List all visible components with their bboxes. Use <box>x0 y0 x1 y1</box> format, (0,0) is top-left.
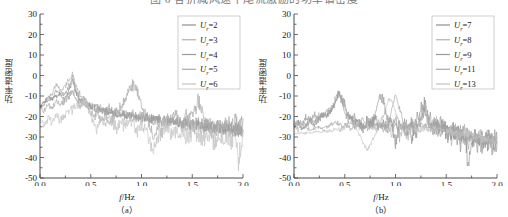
y-tick-label: -40 <box>25 153 37 163</box>
y-tick-label: 10 <box>28 50 38 60</box>
y-tick-label: 10 <box>282 50 292 60</box>
x-tick-label: 1.0 <box>136 180 148 186</box>
x-tick-label: 1.5 <box>187 180 199 186</box>
x-tick-label: 1.5 <box>441 180 453 186</box>
y-tick-label: -10 <box>25 91 37 101</box>
x-tick-label: 0.5 <box>339 180 351 186</box>
x-tick-label: 0.0 <box>288 180 300 186</box>
x-axis-label-b: f/Hz <box>254 192 508 202</box>
figure-container: 功率谱密度 3020100-10-20-30-40-500.00.51.01.5… <box>0 6 508 217</box>
panel-caption-a: （a） <box>0 203 254 215</box>
x-axis-unit-a: /Hz <box>122 192 135 202</box>
y-tick-label: -30 <box>279 132 291 142</box>
x-tick-label: 0.0 <box>34 180 46 186</box>
y-tick-label: -10 <box>279 91 291 101</box>
plot-a: 3020100-10-20-30-40-500.00.51.01.52.0Ur=… <box>0 6 254 186</box>
panel-a: 功率谱密度 3020100-10-20-30-40-500.00.51.01.5… <box>0 6 254 217</box>
y-tick-label: -30 <box>25 132 37 142</box>
x-axis-unit-b: /Hz <box>376 192 389 202</box>
plot-b: 3020100-10-20-30-40-500.00.51.01.52.0Ur=… <box>254 6 508 186</box>
series-line <box>40 99 243 171</box>
y-tick-label: 30 <box>28 9 38 19</box>
y-tick-label: 0 <box>287 71 292 81</box>
x-tick-label: 0.5 <box>85 180 97 186</box>
y-tick-label: 0 <box>33 71 38 81</box>
x-axis-label-a: f/Hz <box>0 192 254 202</box>
y-tick-label: -20 <box>279 112 291 122</box>
y-tick-label: 30 <box>282 9 292 19</box>
x-tick-label: 1.0 <box>390 180 402 186</box>
x-tick-label: 2.0 <box>491 180 503 186</box>
y-tick-label: 20 <box>282 30 292 40</box>
x-tick-label: 2.0 <box>237 180 249 186</box>
y-tick-label: -40 <box>279 153 291 163</box>
panel-b: 功率谱密度 3020100-10-20-30-40-500.00.51.01.5… <box>254 6 508 217</box>
y-tick-label: 20 <box>28 30 38 40</box>
y-tick-label: -20 <box>25 112 37 122</box>
panel-caption-b: （b） <box>254 203 508 215</box>
